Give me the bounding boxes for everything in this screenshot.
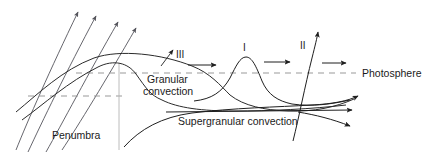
convection-diagram-svg: Penumbra Photosphere Granular convection… xyxy=(0,0,435,164)
granular-convection-label-line1: Granular xyxy=(147,73,188,85)
supergranular-convection-label: Supergranular convection xyxy=(178,115,298,127)
photosphere-label: Photosphere xyxy=(362,67,422,79)
diagram-root: Penumbra Photosphere Granular convection… xyxy=(0,0,435,164)
upflow-arrow-three xyxy=(161,50,173,66)
granule-profile-curve xyxy=(194,57,350,105)
roman-numeral-three-label: III xyxy=(176,49,184,60)
granular-convection-label-line2: convection xyxy=(143,85,193,97)
roman-numeral-two-label: II xyxy=(300,40,306,51)
descending-flow-right xyxy=(298,112,350,126)
horizontal-flow-arrow-group xyxy=(161,50,346,66)
penumbra-label: Penumbra xyxy=(52,129,101,141)
roman-numeral-one-label: I xyxy=(243,42,246,53)
